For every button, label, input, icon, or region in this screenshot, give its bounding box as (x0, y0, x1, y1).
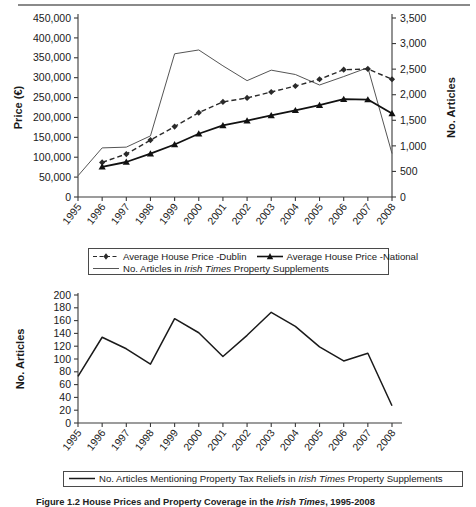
legend-label-tax-reliefs: No. Articles Mentioning Property Tax Rel… (99, 473, 443, 484)
legend-item-dublin: Average House Price -Dublin Average Hous… (93, 251, 384, 262)
chart-1-marker-diamond (365, 66, 371, 72)
chart-1-left-tick-label: 250,000 (33, 91, 71, 103)
chart-1-x-tick-label: 1997 (108, 201, 132, 227)
chart-2-y-tick-label: 180 (53, 301, 71, 313)
chart-2-y-tick-label: 120 (53, 340, 71, 352)
chart-1-right-tick-label: 3,000 (400, 37, 426, 49)
thin-line-icon (93, 264, 119, 273)
chart-2-x-tick-label: 2000 (181, 427, 205, 453)
chart-1-x-tick-label: 2005 (301, 201, 325, 227)
chart-2-container: 0204060801001201401601802001995199619971… (0, 283, 476, 471)
chart-1-marker-diamond (316, 76, 322, 82)
chart-1-x-tick-label: 1996 (84, 201, 108, 227)
chart-1-y-axis-title: Price (€) (12, 85, 24, 129)
chart-1-container: 050,000100,000150,000200,000250,000300,0… (0, 0, 476, 245)
chart-2-x-tick-label: 2002 (229, 427, 253, 453)
chart-1-marker-diamond (172, 123, 178, 129)
chart-1-svg: 050,000100,000150,000200,000250,000300,0… (0, 0, 476, 245)
caption-body-a: House Prices and Property Coverage in th… (83, 497, 277, 507)
chart-1-x-tick-label: 2007 (350, 201, 374, 227)
chart-1-left-tick-label: 450,000 (33, 12, 71, 24)
caption-body-b: , 1995-2008 (325, 497, 375, 507)
chart-1-marker-diamond (196, 110, 202, 116)
chart-1-right-tick-label: 2,500 (400, 63, 426, 75)
chart-1-x-tick-label: 2008 (374, 201, 398, 227)
chart-2-y-tick-label: 40 (59, 391, 71, 403)
chart-1-right-tick-label: 3,500 (400, 12, 426, 24)
chart-1-marker-diamond (220, 99, 226, 105)
legend-item-articles: No. Articles in Irish Times Property Sup… (93, 263, 384, 274)
chart-1-left-tick-label: 350,000 (33, 51, 71, 63)
chart-1-left-tick-label: 200,000 (33, 111, 71, 123)
chart-2-y-tick-label: 20 (59, 404, 71, 416)
chart-2-x-tick-label: 1995 (60, 427, 84, 453)
chart-2-x-tick-label: 2001 (205, 427, 229, 453)
chart-1-x-tick-label: 1998 (132, 201, 156, 227)
chart-2-x-tick-label: 2008 (374, 427, 398, 453)
chart-2-legend: No. Articles Mentioning Property Tax Rel… (63, 471, 463, 487)
caption-prefix: Figure 1.2 (36, 497, 80, 507)
chart-2-y-tick-label: 80 (59, 365, 71, 377)
chart-1-marker-diamond (292, 83, 298, 89)
chart-1-left-tick-label: 0 (65, 191, 71, 203)
chart-2-x-tick-label: 2003 (253, 427, 277, 453)
legend-italic-irish-times: Irish Times (184, 263, 231, 274)
chart-1-left-tick-label: 100,000 (33, 151, 71, 163)
chart-2-y-tick-label: 160 (53, 314, 71, 326)
chart-1-right-tick-label: 1,500 (400, 114, 426, 126)
chart-2-x-tick-label: 2004 (277, 427, 301, 453)
chart-2-x-tick-label: 1997 (108, 427, 132, 453)
chart-1-series-dublin-line (102, 69, 392, 162)
chart-1-x-tick-label: 2006 (325, 201, 349, 227)
chart-1-left-tick-label: 300,000 (33, 71, 71, 83)
chart-1-x-tick-label: 1995 (60, 201, 84, 227)
chart-1-marker-diamond (123, 151, 129, 157)
chart-2-y-tick-label: 0 (65, 417, 71, 429)
chart-1-right-tick-label: 1,000 (400, 140, 426, 152)
figure-page: 050,000100,000150,000200,000250,000300,0… (0, 0, 476, 507)
solid-triangle-line-icon (257, 252, 283, 261)
chart-1-left-tick-label: 50,000 (39, 171, 71, 183)
chart-1-y2-axis-title: No. Articles (445, 77, 457, 138)
chart-2-y-axis-title: No. Articles (14, 329, 26, 390)
chart-1-x-tick-label: 1999 (156, 201, 180, 227)
chart-1-marker-diamond (147, 137, 153, 143)
caption-italic-irish-times: Irish Times (276, 497, 325, 507)
chart-1-legend: Average House Price -Dublin Average Hous… (88, 248, 389, 275)
chart-1-marker-diamond (268, 89, 274, 95)
chart-2-x-tick-label: 2007 (350, 427, 374, 453)
chart-2-x-tick-label: 1996 (84, 427, 108, 453)
chart-2-svg: 0204060801001201401601802001995199619971… (0, 283, 476, 471)
legend-label-dublin: Average House Price -Dublin (123, 251, 247, 262)
legend-label-national: Average House Price -National (287, 251, 419, 262)
chart-2-y-tick-label: 140 (53, 327, 71, 339)
chart-1-right-tick-label: 2,000 (400, 88, 426, 100)
chart-2-x-tick-label: 2005 (301, 427, 325, 453)
chart-2-x-tick-label: 1999 (156, 427, 180, 453)
chart-1-right-tick-label: 500 (400, 165, 418, 177)
chart-1-left-tick-label: 150,000 (33, 131, 71, 143)
chart-2-y-tick-label: 100 (53, 353, 71, 365)
chart-1-x-tick-label: 2000 (181, 201, 205, 227)
chart-1-marker-diamond (341, 67, 347, 73)
chart-2-x-tick-label: 2006 (325, 427, 349, 453)
chart-1-right-tick-label: 0 (400, 191, 406, 203)
chart-1-series-national-line (102, 99, 392, 167)
legend-label-articles: No. Articles in Irish Times Property Sup… (123, 263, 329, 274)
chart-1-x-tick-label: 2003 (253, 201, 277, 227)
chart-1-x-tick-label: 2004 (277, 201, 301, 227)
legend2-italic-irish-times: Irish Times (298, 473, 345, 484)
legend-item-tax-reliefs: No. Articles Mentioning Property Tax Rel… (69, 473, 457, 484)
chart-1-x-tick-label: 2001 (205, 201, 229, 227)
chart-1-left-tick-label: 400,000 (33, 32, 71, 44)
chart-2-series-line (78, 312, 392, 405)
dashed-diamond-line-icon (93, 252, 119, 261)
chart-1-marker-diamond (389, 76, 395, 82)
chart-2-y-tick-label: 200 (53, 289, 71, 301)
chart-1-marker-diamond (244, 95, 250, 101)
figure-caption: Figure 1.2 House Prices and Property Cov… (36, 497, 476, 507)
chart-1-x-tick-label: 2002 (229, 201, 253, 227)
solid-line-icon (69, 474, 95, 483)
chart-2-y-tick-label: 60 (59, 378, 71, 390)
chart-2-x-tick-label: 1998 (132, 427, 156, 453)
